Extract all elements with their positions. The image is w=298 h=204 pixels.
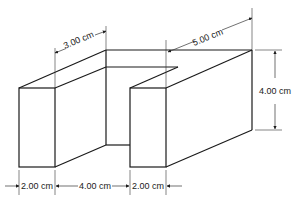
block-drawing: 3.00 cm 5.00 cm 4.00 cm 2.00 cm	[0, 0, 298, 204]
label-2cm-left: 2.00 cm	[21, 181, 53, 191]
label-3cm: 3.00 cm	[62, 29, 95, 51]
dim-3cm: 3.00 cm	[55, 26, 106, 88]
dim-5cm: 5.00 cm	[166, 8, 252, 88]
label-5cm: 5.00 cm	[191, 27, 224, 48]
dim-4cm: 4.00 cm	[255, 50, 291, 130]
dim-bottom: 2.00 cm 4.00 cm 2.00 cm	[5, 170, 182, 195]
label-4cm-gap: 4.00 cm	[79, 181, 111, 191]
label-2cm-right: 2.00 cm	[132, 181, 164, 191]
left-prong	[19, 50, 106, 167]
label-4cm: 4.00 cm	[259, 86, 291, 96]
diagram: 3.00 cm 5.00 cm 4.00 cm 2.00 cm	[0, 0, 298, 204]
slot-interior	[55, 50, 252, 167]
